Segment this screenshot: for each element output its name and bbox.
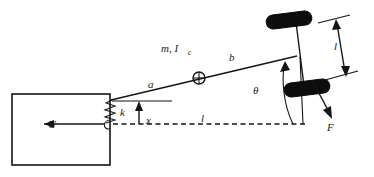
cart-body: [12, 94, 110, 165]
label-input-force: U: [48, 118, 57, 130]
mechanical-diagram: U k x a b l l m, I c θ F: [0, 0, 374, 177]
center-of-mass-marker: [193, 72, 205, 84]
label-length-axle: l: [334, 40, 337, 52]
label-mass-inertia-subscript: c: [188, 48, 192, 57]
label-length-horizontal: l: [201, 112, 204, 124]
x-displacement-arrow: [135, 101, 143, 124]
lower-wheel: [283, 78, 330, 98]
label-mass-inertia: m, I c: [161, 42, 192, 57]
label-angle-theta: θ: [253, 84, 259, 96]
label-distance-a: a: [148, 78, 154, 90]
upper-wheel: [265, 10, 312, 30]
diagram-canvas: U k x a b l l m, I c θ F: [0, 0, 374, 177]
label-force-f: F: [326, 121, 334, 133]
label-mass-inertia-main: m, I: [161, 42, 179, 54]
label-distance-b: b: [229, 51, 235, 63]
label-spring-constant: k: [120, 106, 126, 118]
axle-length-dimension: [318, 15, 358, 80]
label-displacement-x: x: [145, 114, 151, 126]
